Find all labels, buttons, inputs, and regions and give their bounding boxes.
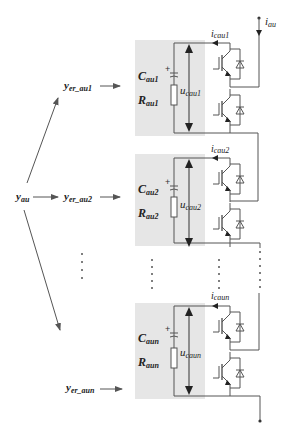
input-signal-label: yau xyxy=(14,190,30,204)
output-current-arrow xyxy=(256,30,262,36)
resistor-1-icon xyxy=(171,85,177,105)
current-arrow-n xyxy=(212,303,218,309)
current-1-label: icau1 xyxy=(211,28,229,40)
current-n-label: icaun xyxy=(211,290,229,302)
bottom-terminal xyxy=(258,419,261,422)
control-signal-tree: yau yer_au1 yer_au2 yer_aun xyxy=(14,79,122,395)
error-signal-label-n: yer_aun xyxy=(64,381,95,395)
resistor-2-icon xyxy=(171,197,177,217)
ellipsis-dots-left xyxy=(81,253,83,279)
submodule-n: + Caun Raun ucaun icaun xyxy=(135,290,260,399)
current-arrow-1 xyxy=(212,40,218,46)
capacitor-1-plus: + xyxy=(165,64,170,74)
current-arrow-2 xyxy=(212,155,218,161)
ellipsis-dots-modules xyxy=(151,251,261,289)
arrow-to-module-n xyxy=(24,210,60,330)
error-signal-label-2: yer_au2 xyxy=(62,190,92,204)
module-1-background xyxy=(135,40,205,136)
module-2-background xyxy=(135,154,205,246)
arrow-to-module-1 xyxy=(27,98,58,183)
capacitor-n-plus: + xyxy=(165,324,170,334)
error-signal-label-1: yer_au1 xyxy=(62,79,92,93)
series-connection-rails: iau xyxy=(256,15,276,423)
submodule-2: + Cau2 Rau2 ucau2 icau2 xyxy=(135,143,260,247)
current-2-label: icau2 xyxy=(211,143,229,155)
capacitor-2-plus: + xyxy=(165,177,170,187)
mmc-submodule-diagram: yau yer_au1 yer_au2 yer_aun + Cau1 Rau1 … xyxy=(0,0,293,436)
submodule-1: + Cau1 Rau1 ucau1 icau1 xyxy=(135,28,259,136)
resistor-n-icon xyxy=(171,348,177,368)
output-current-label: iau xyxy=(265,15,276,29)
